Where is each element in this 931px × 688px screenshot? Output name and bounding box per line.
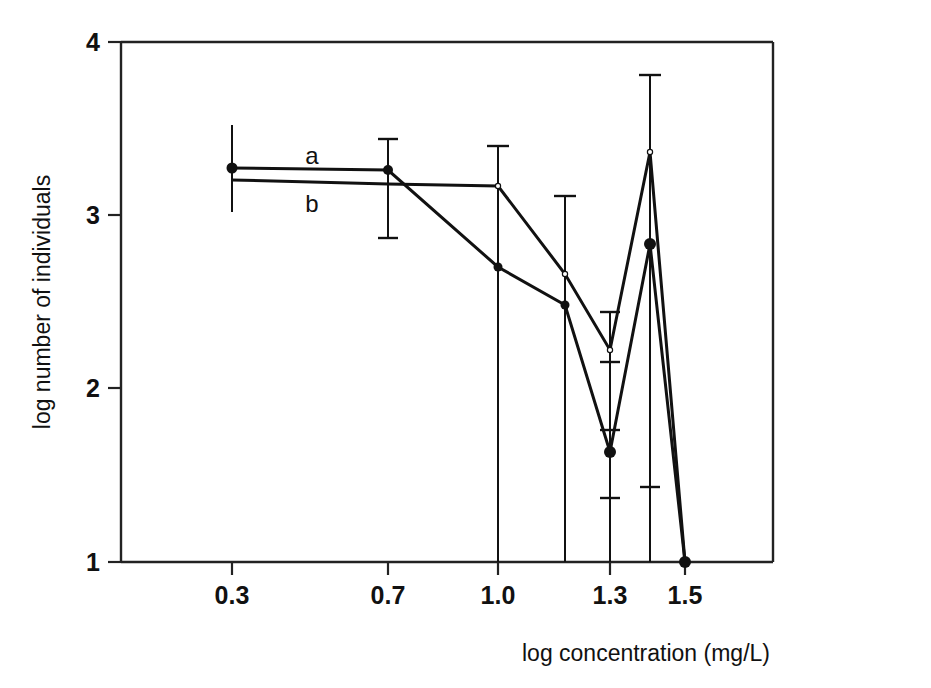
x-tick-label-1: 0.7 <box>371 581 406 609</box>
y-tick-label-4: 4 <box>86 28 100 56</box>
series-a-markers <box>227 163 692 569</box>
series-a-line <box>232 168 685 562</box>
x-axis-title: log concentration (mg/L) <box>522 640 770 666</box>
y-axis-ticks <box>108 42 121 562</box>
series-label-a: a <box>305 142 319 169</box>
y-tick-label-3: 3 <box>86 201 100 229</box>
series-b-line <box>232 152 685 562</box>
x-axis-tick-labels: 0.3 0.7 1.0 1.3 1.5 <box>215 581 703 609</box>
x-tick-label-4: 1.5 <box>668 581 703 609</box>
x-tick-label-0: 0.3 <box>215 581 250 609</box>
series-b-errorbars <box>232 75 661 562</box>
x-tick-label-3: 1.3 <box>593 581 628 609</box>
chart-figure: 4 3 2 1 log number of individuals 0.3 0.… <box>0 0 931 688</box>
series-a-errorbars <box>232 125 620 562</box>
series-label-b: b <box>305 190 318 217</box>
chart-svg: 4 3 2 1 log number of individuals 0.3 0.… <box>0 0 931 688</box>
y-tick-label-2: 2 <box>86 374 100 402</box>
x-tick-label-2: 1.0 <box>481 581 516 609</box>
y-axis-title: log number of individuals <box>29 175 55 429</box>
y-tick-label-1: 1 <box>86 548 100 576</box>
x-axis-ticks <box>232 562 685 575</box>
y-axis-tick-labels: 4 3 2 1 <box>86 28 100 576</box>
